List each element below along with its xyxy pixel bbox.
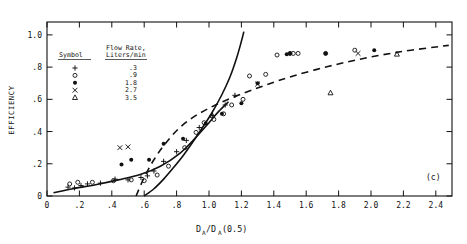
legend-value: 3.5 [125, 94, 137, 102]
marker-cross [118, 145, 123, 150]
y-tick-label: .8 [32, 63, 42, 72]
marker-filled-circle [324, 51, 328, 55]
y-tick-label: 0 [37, 192, 42, 201]
x-tick-label: 0 [45, 201, 50, 210]
x-tick-label: .8 [172, 201, 182, 210]
x-tick-label: .6 [139, 201, 149, 210]
marker-open-circle [90, 180, 94, 184]
marker-filled-circle [220, 112, 224, 116]
marker-filled-circle [204, 122, 208, 126]
marker-open-circle [155, 173, 159, 177]
marker-cross [126, 144, 131, 149]
legend-row: 3.5 [73, 94, 138, 102]
y-tick-label: .6 [32, 95, 42, 104]
legend-header-symbol: Symbol [59, 51, 83, 59]
marker-filled-circle [147, 158, 151, 162]
marker-filled-circle [73, 81, 77, 85]
marker-filled-circle [162, 142, 166, 146]
x-tick-label: 2.2 [396, 201, 411, 210]
marker-open-circle [275, 53, 279, 57]
y-tick-label: 1.0 [28, 31, 43, 40]
marker-open-circle [296, 51, 300, 55]
marker-open-circle [76, 180, 80, 184]
legend-row: .3 [72, 64, 137, 72]
series-filled-circle [120, 48, 377, 166]
marker-open-circle [73, 73, 77, 77]
marker-plus [72, 185, 77, 190]
marker-open-circle [264, 72, 268, 76]
x-axis-label-d1: D [196, 224, 201, 234]
marker-cross [356, 51, 361, 56]
marker-filled-circle [239, 101, 243, 105]
marker-filled-circle [372, 48, 376, 52]
series-plus [65, 93, 237, 191]
marker-open-triangle [328, 90, 333, 95]
x-axis-tick-labels: 0.2.4.6.81.01.21.41.61.82.02.22.4 [45, 201, 444, 210]
marker-open-circle [167, 164, 171, 168]
x-tick-label: .2 [75, 201, 85, 210]
series-open-triangle [210, 52, 400, 118]
marker-filled-circle [288, 51, 292, 55]
panel-label: (c) [426, 173, 440, 182]
solid-curve [144, 32, 244, 196]
x-axis-label-slash-d2: /D [206, 224, 216, 234]
legend: Symbol Flow Rate, Liters/min .3.91.82.73… [58, 44, 147, 102]
legend-header-rate-line2: Liters/min [106, 51, 146, 59]
y-axis-label: EFFICIENCY [7, 85, 16, 134]
x-tick-label: 1.8 [331, 201, 346, 210]
y-axis-ticks [47, 35, 452, 196]
figure-root: 0.2.4.6.81.01.21.41.61.82.02.22.4 0.2.4.… [0, 0, 467, 244]
x-tick-label: 2.0 [364, 201, 379, 210]
marker-open-circle [230, 103, 234, 107]
x-tick-label: 1.6 [299, 201, 314, 210]
marker-plus [72, 65, 77, 70]
marker-plus [232, 93, 237, 98]
x-tick-label: 1.4 [267, 201, 282, 210]
marker-cross [73, 88, 78, 93]
series-cross [118, 51, 361, 150]
marker-open-circle [248, 74, 252, 78]
y-axis-tick-labels: 0.2.4.6.81.0 [28, 31, 43, 201]
y-tick-label: .2 [32, 160, 42, 169]
y-tick-label: .4 [32, 128, 42, 137]
x-axis-label: D A /D A (0.5) [196, 224, 247, 236]
x-tick-label: .4 [107, 201, 117, 210]
x-tick-label: 1.0 [202, 201, 217, 210]
dashed-curve [136, 45, 449, 196]
marker-open-triangle [73, 95, 78, 100]
x-tick-label: 1.2 [234, 201, 249, 210]
marker-open-circle [68, 182, 72, 186]
marker-filled-circle [181, 137, 185, 141]
marker-plus [145, 173, 150, 178]
marker-open-circle [241, 97, 245, 101]
marker-open-circle [194, 130, 198, 134]
marker-filled-circle [129, 158, 133, 162]
marker-filled-circle [120, 163, 124, 167]
x-axis-label-tail: (0.5) [222, 224, 247, 234]
chart-svg: 0.2.4.6.81.01.21.41.61.82.02.22.4 0.2.4.… [0, 0, 467, 244]
x-tick-label: 2.4 [429, 201, 444, 210]
legend-rows: .3.91.82.73.5 [72, 64, 137, 102]
